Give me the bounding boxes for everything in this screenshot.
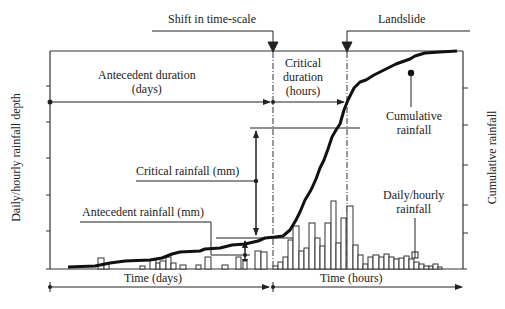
- time-days-label: Time (days): [124, 271, 182, 285]
- antecedent-duration-label: Antecedent duration (days): [98, 68, 196, 96]
- left-axis-label: Daily/hourly rainfall depth: [9, 88, 24, 228]
- cumulative-rainfall-label: Cumulative rainfall: [386, 109, 442, 137]
- shift-in-time-scale-label: Shift in time-scale: [168, 12, 256, 26]
- antecedent-rainfall-label: Antecedent rainfall (mm): [82, 205, 204, 219]
- rainfall-threshold-diagram: [0, 0, 505, 309]
- landslide-label: Landslide: [378, 12, 425, 26]
- shift-callout: [152, 31, 278, 52]
- time-hours-label: Time (hours): [320, 271, 383, 285]
- time-axis-arrows: [50, 282, 462, 292]
- critical-duration-label: Critical duration (hours): [283, 56, 323, 98]
- right-axis-label: Cumulative rainfall: [485, 98, 500, 218]
- right-axis-ticks: [463, 88, 468, 233]
- critical-rainfall-label: Critical rainfall (mm): [136, 164, 239, 178]
- antecedent-rainfall-marker: [80, 222, 250, 266]
- daily-hourly-rainfall-label: Daily/hourly rainfall: [383, 188, 444, 216]
- landslide-callout: [342, 31, 470, 52]
